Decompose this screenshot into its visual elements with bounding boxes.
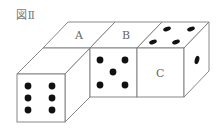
left-die-front-face	[17, 74, 65, 122]
dice-diagram: A B C	[0, 0, 222, 131]
label-a: A	[74, 29, 84, 42]
label-c: C	[156, 67, 164, 80]
label-b: B	[122, 29, 130, 42]
